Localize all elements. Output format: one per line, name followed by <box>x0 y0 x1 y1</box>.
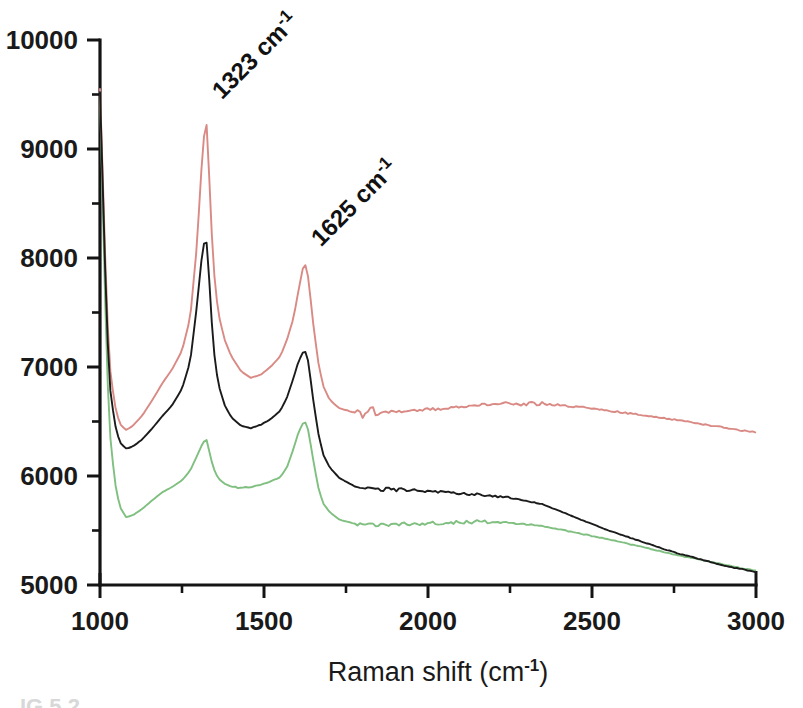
x-tick-label: 2000 <box>399 606 457 636</box>
x-axis-title-text: Raman shift (cm-1) <box>328 656 549 687</box>
y-tick-label: 9000 <box>20 134 78 164</box>
spectrum-trace <box>100 92 755 572</box>
spectrum-trace <box>100 89 755 432</box>
x-tick-label: 1500 <box>235 606 293 636</box>
y-tick-label: 7000 <box>20 352 78 382</box>
peak-label-1323: 1323 cm-1 <box>205 6 303 104</box>
x-axis-title: Raman shift (cm-1) <box>328 656 549 687</box>
axes-group: 5000600070008000900010000100015002000250… <box>6 25 785 636</box>
y-tick-label: 6000 <box>20 461 78 491</box>
peak-label-1625-text: 1625 cm-1 <box>304 153 402 251</box>
y-tick-label: 5000 <box>20 570 78 600</box>
spectrum-trace <box>100 97 755 571</box>
x-tick-label: 2500 <box>563 606 621 636</box>
x-tick-label: 3000 <box>727 606 785 636</box>
figure-caption-fragment: IG 5.2 <box>20 694 80 708</box>
spectra-traces <box>100 89 755 572</box>
x-tick-label: 1000 <box>71 606 129 636</box>
y-tick-label: 10000 <box>6 25 78 55</box>
peak-label-1625: 1625 cm-1 <box>304 153 402 251</box>
y-tick-label: 8000 <box>20 243 78 273</box>
peak-label-1323-text: 1323 cm-1 <box>205 6 303 104</box>
